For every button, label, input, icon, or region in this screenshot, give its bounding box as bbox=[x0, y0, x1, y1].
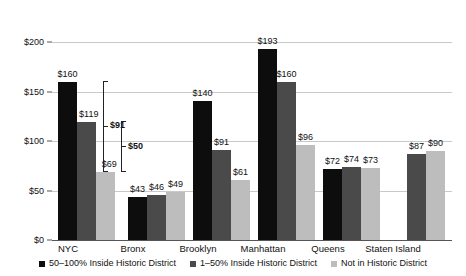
bar-nyc-inside-1-50[interactable] bbox=[77, 122, 96, 240]
legend-swatch-icon bbox=[39, 261, 45, 267]
legend-label: 1–50% Inside Historic District bbox=[200, 259, 317, 268]
y-tick-label: $100 bbox=[0, 137, 44, 146]
bar-value-label: $193 bbox=[257, 37, 277, 46]
bar-queens-not-in-district[interactable] bbox=[361, 168, 380, 240]
bar-manhattan-inside-50-100[interactable] bbox=[258, 49, 277, 240]
legend-label: Not in Historic District bbox=[341, 259, 427, 268]
bar-slot: $160 bbox=[277, 42, 296, 240]
bar-value-label: $49 bbox=[168, 180, 183, 189]
bar-slot: $49 bbox=[166, 42, 185, 240]
bar-value-label: $140 bbox=[192, 89, 212, 98]
bracket-tick-91-top bbox=[103, 81, 108, 82]
bar-value-label: $72 bbox=[325, 157, 340, 166]
bracket-tick-50-bottom bbox=[121, 171, 126, 172]
legend-item-inside-50-100[interactable]: 50–100% Inside Historic District bbox=[39, 259, 176, 268]
bar-slot: $73 bbox=[361, 42, 380, 240]
legend-item-inside-1-50[interactable]: 1–50% Inside Historic District bbox=[190, 259, 317, 268]
bar-slot: $119 bbox=[77, 42, 96, 240]
bar-staten-island-inside-1-50[interactable] bbox=[407, 154, 426, 240]
bar-manhattan-not-in-district[interactable] bbox=[296, 145, 315, 240]
bar-slot: $90 bbox=[426, 42, 445, 240]
bar-value-label: $96 bbox=[298, 133, 313, 142]
bar-slot: $87 bbox=[407, 42, 426, 240]
bar-staten-island-not-in-district[interactable] bbox=[426, 151, 445, 240]
bracket-pointer-91 bbox=[103, 126, 108, 127]
bar-value-label: $91 bbox=[214, 138, 229, 147]
axis-baseline bbox=[52, 240, 452, 241]
legend-swatch-icon bbox=[190, 261, 196, 267]
bar-value-label: $160 bbox=[276, 70, 296, 79]
bar-value-label: $61 bbox=[233, 168, 248, 177]
bar-nyc-not-in-district[interactable] bbox=[96, 172, 115, 240]
bar-slot: $193 bbox=[258, 42, 277, 240]
bar-bronx-inside-50-100[interactable] bbox=[128, 197, 147, 240]
y-tick-label: $200 bbox=[0, 38, 44, 47]
legend-swatch-icon bbox=[331, 261, 337, 267]
bar-slot: $61 bbox=[231, 42, 250, 240]
bar-slot: $91 bbox=[212, 42, 231, 240]
bar-slot: $96 bbox=[296, 42, 315, 240]
bar-value-label: $69 bbox=[102, 160, 117, 169]
bar-value-label: $90 bbox=[428, 139, 443, 148]
bar-value-label: $46 bbox=[149, 183, 164, 192]
bar-nyc-inside-50-100[interactable] bbox=[58, 82, 77, 240]
bar-chart: $200 $150 $100 $50 $0 $160 $119 bbox=[0, 0, 466, 276]
bar-brooklyn-inside-1-50[interactable] bbox=[212, 150, 231, 240]
chart-legend: 50–100% Inside Historic District 1–50% I… bbox=[0, 259, 466, 268]
bracket-pointer-50 bbox=[121, 146, 126, 147]
bar-value-label: $73 bbox=[363, 156, 378, 165]
bracket-label-91: $91 bbox=[110, 121, 125, 130]
legend-item-not-in-district[interactable]: Not in Historic District bbox=[331, 259, 427, 268]
bracket-tick-50-top bbox=[121, 121, 126, 122]
plot-area: $160 $119 $69 $91 bbox=[52, 42, 452, 240]
bar-value-label: $160 bbox=[57, 70, 77, 79]
bar-manhattan-inside-1-50[interactable] bbox=[277, 82, 296, 240]
bracket-line-91 bbox=[103, 82, 104, 172]
legend-label: 50–100% Inside Historic District bbox=[49, 259, 176, 268]
bar-slot: $74 bbox=[342, 42, 361, 240]
y-tick-label: $150 bbox=[0, 87, 44, 96]
bar-slot: $140 bbox=[193, 42, 212, 240]
bar-slot: $46 bbox=[147, 42, 166, 240]
bar-brooklyn-inside-50-100[interactable] bbox=[193, 101, 212, 240]
bar-bronx-not-in-district[interactable] bbox=[166, 192, 185, 241]
bar-queens-inside-50-100[interactable] bbox=[323, 169, 342, 240]
bar-queens-inside-1-50[interactable] bbox=[342, 167, 361, 240]
y-tick-label: $50 bbox=[0, 186, 44, 195]
x-tick-label-staten-island: Staten Island bbox=[353, 244, 433, 254]
bar-slot: $72 bbox=[323, 42, 342, 240]
bar-slot: $160 bbox=[58, 42, 77, 240]
bar-bronx-inside-1-50[interactable] bbox=[147, 195, 166, 241]
bracket-tick-91-bottom bbox=[103, 171, 108, 172]
bar-value-label: $43 bbox=[130, 185, 145, 194]
bar-value-label: $87 bbox=[409, 142, 424, 151]
bar-slot-empty bbox=[388, 42, 407, 240]
bar-slot: $69 bbox=[96, 42, 115, 240]
bar-brooklyn-not-in-district[interactable] bbox=[231, 180, 250, 240]
bar-slot: $43 bbox=[128, 42, 147, 240]
bar-value-label: $74 bbox=[344, 155, 359, 164]
